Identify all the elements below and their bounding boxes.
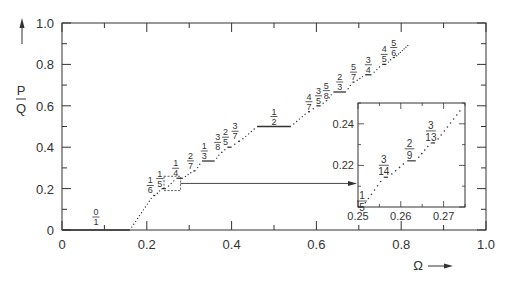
y-tick-label: 1.0 <box>36 16 54 31</box>
x-tick-label: 1.0 <box>477 237 495 252</box>
svg-text:3: 3 <box>233 121 238 131</box>
x-tick-label: 0.4 <box>223 237 241 252</box>
svg-text:3: 3 <box>337 82 342 92</box>
y-tick-label: 0 <box>47 223 54 238</box>
svg-text:6: 6 <box>148 185 153 195</box>
step-label: 57 <box>350 62 357 82</box>
svg-text:7: 7 <box>233 131 238 141</box>
svg-text:0: 0 <box>93 207 98 217</box>
svg-text:1: 1 <box>202 141 207 151</box>
svg-text:7: 7 <box>188 161 193 171</box>
x-axis-arrow-icon <box>428 264 453 269</box>
step-label: 16 <box>147 175 154 195</box>
step-label: 47 <box>305 92 312 112</box>
zoom-arrow-icon <box>348 181 357 186</box>
svg-text:1: 1 <box>359 190 365 201</box>
x-tick-label: 0.8 <box>392 237 410 252</box>
svg-text:14: 14 <box>378 166 390 177</box>
svg-text:5: 5 <box>351 62 356 72</box>
svg-text:5: 5 <box>324 81 329 91</box>
step-label: 45 <box>381 44 388 64</box>
svg-text:5: 5 <box>157 179 162 189</box>
svg-text:7: 7 <box>306 102 311 112</box>
inset-x-tick-label: 0.27 <box>433 210 454 222</box>
svg-text:2: 2 <box>407 138 413 149</box>
svg-text:1: 1 <box>157 169 162 179</box>
step-label: 13 <box>201 141 208 161</box>
step-label: 01 <box>92 207 99 227</box>
y-axis-label-denominator: Q <box>16 101 26 116</box>
y-tick-label: 0.4 <box>36 140 54 155</box>
inset-x-tick-label: 0.25 <box>347 210 368 222</box>
svg-text:4: 4 <box>173 168 178 178</box>
inset-y-tick-label: 0.24 <box>333 118 354 130</box>
svg-text:5: 5 <box>391 38 396 48</box>
svg-text:5: 5 <box>359 202 365 213</box>
svg-text:5: 5 <box>316 96 321 106</box>
svg-text:13: 13 <box>425 132 437 143</box>
step-label: 25 <box>222 127 229 147</box>
svg-text:2: 2 <box>188 151 193 161</box>
svg-text:5: 5 <box>223 137 228 147</box>
svg-text:2: 2 <box>223 127 228 137</box>
step-label: 34 <box>365 55 372 75</box>
svg-text:3: 3 <box>381 154 387 165</box>
svg-text:4: 4 <box>306 92 311 102</box>
svg-text:4: 4 <box>382 44 387 54</box>
svg-text:1: 1 <box>93 217 98 227</box>
svg-text:3: 3 <box>366 55 371 65</box>
x-tick-label: 0.6 <box>307 237 325 252</box>
x-axis-label: Ω <box>413 258 423 273</box>
svg-text:1: 1 <box>173 158 178 168</box>
svg-text:3: 3 <box>428 120 434 131</box>
step-label: 23 <box>336 72 343 92</box>
step-label: 56 <box>390 38 397 58</box>
svg-text:3: 3 <box>202 151 207 161</box>
devils-staircase-chart: 00.20.40.60.81.000.20.40.60.81.0 0116151… <box>0 0 510 281</box>
inset-y-tick-label: 0.22 <box>333 159 354 171</box>
inset-plot: 0.250.260.270.220.241531429313 <box>164 103 465 222</box>
svg-text:3: 3 <box>316 86 321 96</box>
step-label: 38 <box>214 132 221 152</box>
svg-text:1: 1 <box>148 175 153 185</box>
step-label: 35 <box>315 86 322 106</box>
svg-text:5: 5 <box>382 54 387 64</box>
step-fraction-labels: 011615142713382537124735582357344556 <box>92 38 397 227</box>
x-tick-label: 0 <box>58 237 65 252</box>
y-axis-label-numerator: P <box>17 83 26 98</box>
inset-x-tick-label: 0.26 <box>390 210 411 222</box>
step-label: 58 <box>323 81 330 101</box>
y-tick-label: 0.8 <box>36 57 54 72</box>
step-label: 14 <box>172 158 179 178</box>
y-axis-arrow-icon <box>20 18 25 44</box>
step-label: 12 <box>271 107 278 127</box>
step-label: 15 <box>156 169 163 189</box>
svg-text:2: 2 <box>337 72 342 82</box>
x-tick-label: 0.2 <box>138 237 156 252</box>
svg-text:7: 7 <box>351 72 356 82</box>
svg-text:3: 3 <box>215 132 220 142</box>
y-tick-label: 0.6 <box>36 99 54 114</box>
svg-text:8: 8 <box>324 91 329 101</box>
svg-text:2: 2 <box>271 117 276 127</box>
svg-text:6: 6 <box>391 48 396 58</box>
svg-text:4: 4 <box>366 65 371 75</box>
svg-text:8: 8 <box>215 142 220 152</box>
step-label: 37 <box>232 121 239 141</box>
step-label: 27 <box>187 151 194 171</box>
y-tick-label: 0.2 <box>36 182 54 197</box>
svg-text:1: 1 <box>271 107 276 117</box>
svg-text:9: 9 <box>407 150 413 161</box>
